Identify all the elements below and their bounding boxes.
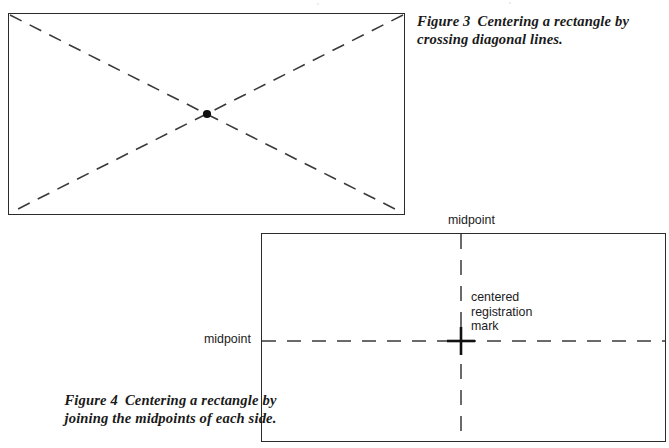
- diagonals-overlay: [8, 13, 405, 215]
- midpoint-lines-overlay: [261, 233, 666, 442]
- label-centered-registration-mark: centered registration mark: [471, 290, 532, 334]
- caption-figure-3: Figure 3Centering a rectangle by crossin…: [417, 13, 663, 48]
- caption-figure-3-label: Figure 3: [417, 13, 471, 29]
- figure-joining-midpoints: [261, 233, 666, 442]
- page-canvas: Figure 3Centering a rectangle by crossin…: [0, 0, 669, 448]
- label-midpoint-top: midpoint: [448, 213, 495, 228]
- caption-figure-4-label: Figure 4: [64, 392, 118, 408]
- center-point-dot: [203, 110, 211, 118]
- scan-bleed-artifact: [300, 0, 660, 7]
- caption-figure-4: Figure 4Centering a rectangle by joining…: [58, 392, 283, 427]
- figure-crossing-diagonals: [8, 13, 405, 215]
- label-midpoint-left: midpoint: [204, 332, 251, 347]
